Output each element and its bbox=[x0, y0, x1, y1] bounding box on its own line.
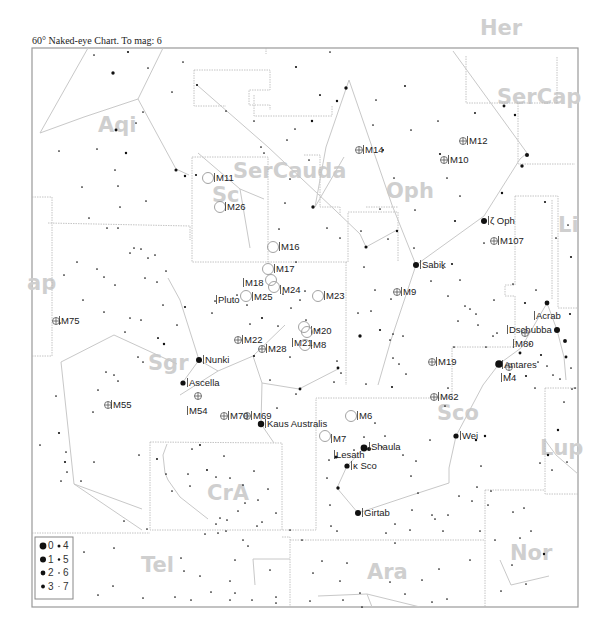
star bbox=[539, 462, 541, 464]
star bbox=[135, 122, 137, 124]
star bbox=[357, 312, 359, 314]
star bbox=[476, 486, 478, 488]
star bbox=[557, 429, 559, 431]
dso-label: M16 bbox=[281, 241, 299, 252]
star bbox=[189, 485, 191, 487]
star bbox=[295, 393, 297, 395]
dso-label: M28 bbox=[268, 343, 286, 354]
named-star bbox=[554, 327, 560, 333]
star bbox=[329, 504, 331, 506]
dso-label: M19 bbox=[438, 356, 456, 367]
star bbox=[535, 289, 537, 291]
star bbox=[500, 590, 502, 592]
star bbox=[483, 242, 485, 244]
star-label: ζ Oph bbox=[490, 215, 515, 226]
dso-label: M75 bbox=[61, 315, 79, 326]
star bbox=[566, 461, 568, 463]
star bbox=[103, 276, 105, 278]
star bbox=[530, 530, 532, 532]
star bbox=[374, 289, 376, 291]
star bbox=[93, 461, 95, 463]
star bbox=[446, 177, 448, 179]
constellation-label: SerCap bbox=[497, 85, 581, 109]
star-chart[interactable]: AqiSerCaudaOphHerSerCapLiapSgrScoLupCrAT… bbox=[0, 0, 606, 640]
star bbox=[479, 530, 481, 532]
star bbox=[142, 111, 144, 113]
star bbox=[520, 164, 523, 167]
star bbox=[446, 598, 448, 600]
star bbox=[525, 583, 527, 585]
star bbox=[563, 339, 567, 343]
star bbox=[225, 110, 227, 112]
star bbox=[442, 530, 444, 532]
star bbox=[96, 148, 98, 150]
constellation-label: Aqi bbox=[98, 113, 136, 137]
star bbox=[215, 476, 217, 478]
star bbox=[525, 153, 529, 157]
star-label: Girtab bbox=[364, 507, 390, 518]
legend-mag-3-dot bbox=[41, 585, 45, 589]
star bbox=[431, 601, 433, 603]
star bbox=[242, 539, 244, 541]
dso-label: M6 bbox=[359, 410, 372, 421]
star bbox=[469, 559, 471, 561]
star bbox=[117, 227, 119, 229]
star bbox=[180, 557, 182, 559]
star bbox=[414, 209, 416, 211]
star bbox=[469, 308, 471, 310]
dso-label: M25 bbox=[254, 291, 272, 302]
star bbox=[294, 128, 296, 130]
dso-label: M8 bbox=[313, 339, 326, 350]
star bbox=[246, 304, 248, 306]
star bbox=[339, 580, 341, 582]
constellation-label: Tel bbox=[141, 553, 174, 577]
star bbox=[340, 372, 342, 374]
star bbox=[195, 174, 197, 176]
star bbox=[396, 230, 398, 232]
legend-mag-1-dot bbox=[40, 557, 46, 563]
star bbox=[364, 245, 367, 248]
star bbox=[336, 100, 338, 102]
star bbox=[124, 331, 126, 333]
star bbox=[308, 159, 310, 161]
star bbox=[63, 274, 65, 276]
star-label: Pluto bbox=[218, 294, 240, 305]
star bbox=[309, 600, 311, 602]
star bbox=[543, 553, 545, 555]
star bbox=[275, 512, 277, 514]
named-star bbox=[180, 380, 185, 385]
star bbox=[97, 594, 99, 596]
star bbox=[492, 335, 494, 337]
named-star bbox=[453, 433, 458, 438]
star bbox=[190, 599, 192, 601]
legend-mag-label: 3 bbox=[48, 581, 54, 592]
constellation-label: Nor bbox=[510, 541, 553, 565]
dso-label: M24 bbox=[282, 284, 300, 295]
star bbox=[81, 186, 83, 188]
star bbox=[103, 311, 105, 313]
star bbox=[417, 492, 419, 494]
star bbox=[439, 153, 441, 155]
star bbox=[184, 306, 186, 308]
star bbox=[358, 334, 361, 337]
star bbox=[163, 343, 165, 345]
star-label: Shaula bbox=[371, 441, 401, 452]
star bbox=[374, 422, 376, 424]
star bbox=[480, 465, 482, 467]
legend-mag-label: 2 bbox=[48, 567, 54, 578]
star bbox=[76, 261, 78, 263]
star bbox=[66, 471, 68, 473]
star bbox=[567, 224, 569, 226]
star bbox=[311, 205, 314, 208]
star bbox=[336, 486, 339, 489]
dso-label: M12 bbox=[469, 135, 487, 146]
star bbox=[223, 455, 225, 457]
star bbox=[295, 261, 297, 263]
star bbox=[333, 381, 335, 383]
star bbox=[191, 448, 193, 450]
legend-mag-label: 1 bbox=[48, 554, 54, 565]
star bbox=[114, 169, 116, 171]
star bbox=[93, 54, 95, 56]
star bbox=[171, 91, 173, 93]
star bbox=[464, 305, 466, 307]
